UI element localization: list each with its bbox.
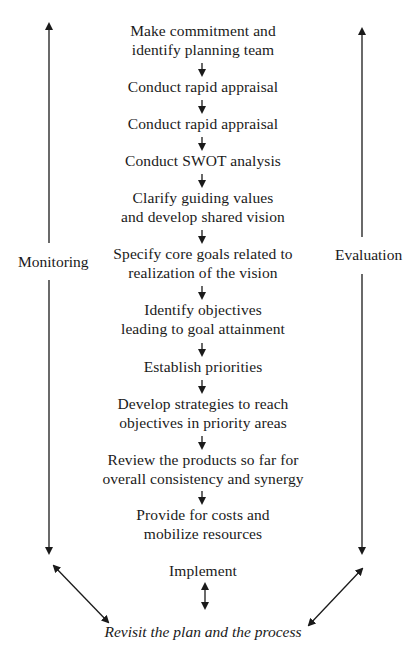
step-provide-costs: Provide for costs and mobilize resources [90, 505, 316, 543]
monitoring-label: Monitoring [18, 252, 89, 271]
step-review-products: Review the products so far for overall c… [90, 450, 316, 488]
step-line: Review the products so far for [90, 450, 316, 469]
step-line: Develop strategies to reach [90, 394, 316, 413]
step-line: Implement [90, 561, 316, 580]
step-line: identify planning team [90, 40, 316, 59]
step-identify-objectives: Identify objectives leading to goal atta… [90, 300, 316, 338]
evaluation-label: Evaluation [335, 245, 402, 264]
step-specify-goals: Specify core goals related to realizatio… [90, 244, 316, 282]
step-clarify-values: Clarify guiding values and develop share… [90, 188, 316, 226]
step-line: objectives in priority areas [90, 413, 316, 432]
step-line: Conduct rapid appraisal [90, 77, 316, 96]
step-line: overall consistency and synergy [90, 469, 316, 488]
step-line: Conduct rapid appraisal [90, 114, 316, 133]
step-line: Clarify guiding values [90, 188, 316, 207]
evaluation-revisit-arrow-icon [309, 569, 362, 625]
step-line: Identify objectives [90, 300, 316, 319]
step-line: Provide for costs and [90, 505, 316, 524]
step-implement: Implement [90, 561, 316, 580]
step-develop-strategies: Develop strategies to reach objectives i… [90, 394, 316, 432]
revisit-plan-label: Revisit the plan and the process [80, 622, 326, 641]
step-line: mobilize resources [90, 524, 316, 543]
step-line: realization of the vision [90, 263, 316, 282]
step-rapid-appraisal-1: Conduct rapid appraisal [90, 77, 316, 96]
step-establish-priorities: Establish priorities [90, 357, 316, 376]
step-line: and develop shared vision [90, 207, 316, 226]
step-line: Specify core goals related to [90, 244, 316, 263]
step-line: leading to goal attainment [90, 319, 316, 338]
step-make-commitment: Make commitment and identify planning te… [90, 21, 316, 59]
step-line: Establish priorities [90, 357, 316, 376]
step-line: Conduct SWOT analysis [90, 151, 316, 170]
step-swot-analysis: Conduct SWOT analysis [90, 151, 316, 170]
step-line: Make commitment and [90, 21, 316, 40]
step-rapid-appraisal-2: Conduct rapid appraisal [90, 114, 316, 133]
